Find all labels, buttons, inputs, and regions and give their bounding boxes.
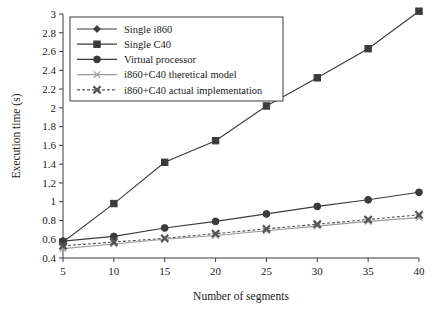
data-point-marker: [111, 200, 117, 206]
line-chart: 0.40.60.811.21.41.61.822.22.42.62.83 510…: [0, 0, 438, 320]
x-tick-label: 40: [414, 265, 426, 277]
legend-label: Single C40: [124, 39, 171, 50]
y-tick-label: 2.2: [42, 83, 56, 95]
x-tick-label: 10: [108, 265, 120, 277]
y-tick-label: 1.8: [42, 120, 56, 132]
y-tick-label: 0.6: [42, 233, 56, 245]
x-tick-label: 25: [261, 265, 273, 277]
data-point-marker: [94, 56, 101, 63]
y-tick-label: 1.4: [42, 158, 56, 170]
legend-label: Single i860: [124, 24, 172, 35]
x-axis-title: Number of segments: [193, 290, 289, 303]
x-tick-label: 30: [312, 265, 324, 277]
data-point-marker: [212, 218, 219, 225]
y-tick-label: 3: [51, 8, 57, 20]
y-tick-label: 0.4: [42, 252, 56, 264]
data-point-marker: [365, 196, 372, 203]
data-point-marker: [365, 46, 371, 52]
data-point-marker: [416, 189, 423, 196]
data-point-marker: [161, 235, 168, 242]
x-tick-label: 15: [159, 265, 171, 277]
y-axis-ticks: 0.40.60.811.21.41.61.822.22.42.62.83: [42, 8, 63, 264]
legend-label: i860+C40 theretical model: [124, 69, 237, 80]
data-point-marker: [416, 8, 422, 14]
y-tick-label: 2.8: [42, 27, 56, 39]
data-point-marker: [263, 210, 270, 217]
x-tick-label: 35: [363, 265, 375, 277]
chart-legend: Single i860Single C40Virtual processori8…: [70, 17, 283, 101]
y-tick-label: 0.8: [42, 214, 56, 226]
y-tick-label: 1.6: [42, 139, 56, 151]
y-axis-title: Execution time (s): [10, 93, 23, 178]
legend-label: i860+C40 actual implementation: [124, 85, 263, 96]
x-tick-label: 5: [60, 265, 66, 277]
data-point-marker: [314, 75, 320, 81]
y-tick-label: 2.4: [42, 64, 56, 76]
data-point-marker: [94, 41, 100, 47]
y-tick-label: 2: [51, 102, 57, 114]
x-axis-ticks: 510152025303540: [60, 258, 425, 277]
data-point-marker: [212, 137, 218, 143]
y-tick-label: 2.6: [42, 45, 56, 57]
chart-container: 0.40.60.811.21.41.61.822.22.42.62.83 510…: [0, 0, 438, 320]
legend-label: Virtual processor: [124, 54, 196, 65]
data-point-marker: [161, 225, 168, 232]
y-tick-label: 1: [51, 195, 57, 207]
x-tick-label: 20: [210, 265, 222, 277]
data-point-marker: [263, 103, 269, 109]
y-tick-label: 1.2: [42, 177, 56, 189]
data-point-marker: [314, 203, 321, 210]
data-point-marker: [162, 159, 168, 165]
series-virtual-processor: [60, 189, 423, 245]
